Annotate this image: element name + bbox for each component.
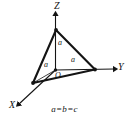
- intercept-label-z: a: [58, 39, 62, 47]
- axis-lines: [19, 15, 114, 104]
- vertex-dot-z: [54, 28, 58, 32]
- axis-label-z: Z: [54, 1, 60, 11]
- intercept-triangle-outline: [33, 30, 95, 83]
- axis-label-y: Y: [118, 62, 124, 72]
- axis-line-y: [56, 69, 115, 70]
- intercept-triangle: [33, 30, 95, 83]
- origin-label: O: [55, 72, 61, 80]
- figure-caption: a=b=c: [0, 104, 129, 114]
- intercept-label-y: a: [71, 56, 75, 64]
- vertex-dot-y: [93, 68, 97, 72]
- crystal-axes-figure: Z Y X a a a O a=b=c: [0, 0, 129, 122]
- intercept-label-x: a: [44, 61, 48, 69]
